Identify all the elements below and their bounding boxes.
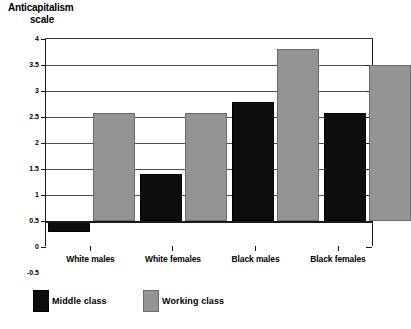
gridline-3: [46, 91, 372, 92]
chart-legend: Middle class Working class: [0, 288, 391, 318]
plot-area: [45, 38, 373, 246]
y-tick-label-2: 2: [11, 139, 39, 146]
legend-label-middle-class: Middle class: [52, 296, 107, 306]
chart-title: Anticapitalism scale: [8, 2, 74, 26]
y-tick-label-4: 4: [11, 35, 39, 42]
y-tick-mark-3-5: [41, 65, 46, 66]
y-tick-mark-neg-0-5: [41, 247, 46, 248]
bar-middle-class-white-males: [48, 221, 90, 232]
y-tick-mark-2-5: [41, 117, 46, 118]
y-tick-mark-2: [41, 143, 46, 144]
x-axis-label-white-females: White females: [128, 254, 218, 264]
gray-square-icon: [143, 290, 159, 312]
y-tick-label-1-5: 1.5: [11, 165, 39, 172]
legend-label-working-class: Working class: [162, 296, 224, 306]
chart-title-line-2: scale: [8, 14, 74, 26]
y-tick-mark-3: [41, 91, 46, 92]
bar-middle-class-black-males: [232, 102, 274, 221]
y-tick-mark-4: [41, 39, 46, 40]
bar-working-class-black-males: [277, 49, 319, 221]
y-tick-label-1: 1: [11, 191, 39, 198]
x-tick-mark-4: [338, 246, 339, 251]
y-tick-label-3-5: 3.5: [11, 61, 39, 68]
x-tick-mark-2: [172, 246, 173, 251]
bar-middle-class-black-females: [324, 113, 366, 221]
y-tick-mark-right-neg-0-5: [366, 247, 372, 248]
gridline-3-5: [46, 65, 372, 66]
x-tick-mark-1: [90, 246, 91, 251]
y-tick-label-0: 0: [11, 243, 39, 250]
x-axis-label-white-males: White males: [48, 254, 133, 264]
black-square-icon: [33, 290, 49, 312]
bar-working-class-white-males: [93, 113, 135, 221]
chart-title-line-1: Anticapitalism: [8, 2, 74, 14]
x-tick-mark-3: [255, 246, 256, 251]
y-tick-label-neg-0-5: -0.5: [11, 269, 39, 276]
y-tick-mark-1: [41, 195, 46, 196]
y-tick-label-0-5: 0.5: [11, 217, 39, 224]
x-axis-label-black-males: Black males: [213, 254, 298, 264]
legend-item-working-class: Working class: [143, 290, 224, 312]
y-tick-label-3: 3: [11, 87, 39, 94]
legend-item-middle-class: Middle class: [33, 290, 107, 312]
zero-baseline: [46, 221, 372, 223]
bar-middle-class-white-females: [140, 174, 182, 221]
y-tick-mark-1-5: [41, 169, 46, 170]
bar-working-class-white-females: [185, 113, 227, 221]
x-axis-label-black-females: Black females: [293, 254, 383, 264]
bar-working-class-black-females: [369, 65, 411, 221]
y-tick-label-2-5: 2.5: [11, 113, 39, 120]
